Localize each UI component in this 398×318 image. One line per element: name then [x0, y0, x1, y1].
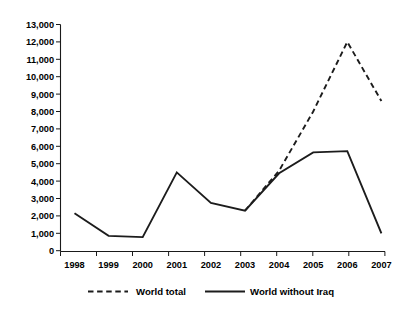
series-line-world-without-iraq: [75, 151, 382, 237]
x-tick-label: 2000: [132, 260, 152, 270]
y-tick-label: 11,000: [26, 55, 54, 65]
y-tick-label: 3,000: [31, 194, 54, 204]
legend-label: World without Iraq: [250, 286, 334, 297]
x-tick-label: 2006: [337, 260, 357, 270]
x-axis-tick-labels: 1998 1999 2000 2001 2002 2003 2004 2005 …: [64, 260, 391, 270]
y-tick-label: 10,000: [26, 72, 54, 82]
data-series-group: [75, 42, 382, 237]
x-tick-label: 2007: [371, 260, 391, 270]
x-tick-label: 2003: [235, 260, 255, 270]
y-tick-label: 9,000: [31, 90, 54, 100]
y-axis: [56, 25, 61, 252]
legend-item-world-total[interactable]: World total: [88, 286, 186, 297]
y-tick-label: 13,000: [26, 20, 54, 30]
chart-canvas: 13,000 12,000 11,000 10,000 9,000 8,000 …: [0, 0, 398, 318]
x-tick-label: 1998: [64, 260, 84, 270]
y-tick-label: 8,000: [31, 107, 54, 117]
legend-label: World total: [136, 286, 186, 297]
x-tick-label: 1999: [98, 260, 118, 270]
line-chart: 13,000 12,000 11,000 10,000 9,000 8,000 …: [0, 0, 398, 318]
y-tick-label: 6,000: [31, 142, 54, 152]
y-tick-label: 1,000: [31, 229, 54, 239]
y-tick-label: 12,000: [26, 37, 54, 47]
x-tick-label: 2005: [303, 260, 323, 270]
y-axis-tick-labels: 13,000 12,000 11,000 10,000 9,000 8,000 …: [26, 20, 54, 256]
y-tick-label: 4,000: [31, 177, 54, 187]
y-tick-label: 7,000: [31, 124, 54, 134]
x-tick-label: 2004: [269, 260, 290, 270]
legend-item-world-without-iraq[interactable]: World without Iraq: [205, 286, 334, 297]
x-tick-label: 2001: [167, 260, 187, 270]
y-tick-label: 0: [49, 246, 54, 256]
y-tick-label: 2,000: [31, 211, 54, 221]
x-tick-label: 2002: [201, 260, 221, 270]
chart-legend: World total World without Iraq: [88, 286, 334, 297]
y-tick-label: 5,000: [31, 159, 54, 169]
x-axis: [61, 252, 386, 257]
